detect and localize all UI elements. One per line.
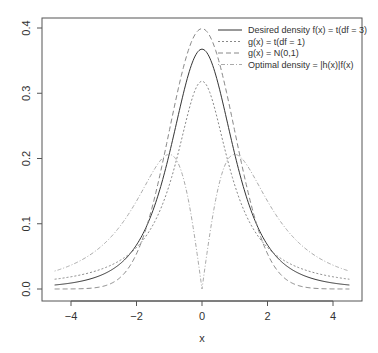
t3-density-curve (55, 49, 350, 285)
y-tick-label: 0.3 (20, 86, 32, 101)
legend-label: Desired density f(x) = t(df = 3) (248, 25, 367, 35)
y-tick-label: 0.1 (20, 216, 32, 231)
x-tick-label: 4 (330, 310, 336, 322)
y-axis: 0.00.10.20.30.4 (20, 20, 42, 296)
x-axis-title: x (199, 332, 205, 344)
density-chart: −4−2024 0.00.10.20.30.4 x Desired densit… (0, 0, 378, 353)
x-tick-label: −4 (65, 310, 78, 322)
x-tick-label: 0 (199, 310, 205, 322)
legend-label: Optimal density = |h(x)|f(x) (248, 60, 353, 70)
x-tick-label: −2 (130, 310, 143, 322)
y-tick-label: 0.4 (20, 20, 32, 35)
legend: Desired density f(x) = t(df = 3)g(x) = t… (218, 25, 367, 70)
y-tick-label: 0.2 (20, 151, 32, 166)
legend-label: g(x) = t(df = 1) (248, 37, 305, 47)
y-tick-label: 0.0 (20, 281, 32, 296)
x-axis: −4−2024 (65, 301, 336, 322)
optimal-density-curve (55, 154, 350, 289)
x-tick-label: 2 (264, 310, 270, 322)
legend-label: g(x) = N(0,1) (248, 48, 299, 58)
cauchy-density-curve (55, 81, 350, 279)
